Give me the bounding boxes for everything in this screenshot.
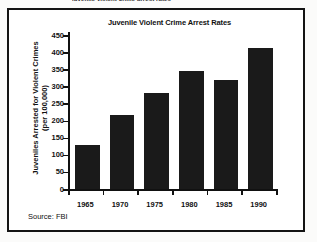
x-tick-mark xyxy=(207,189,209,195)
y-tick-mark xyxy=(63,86,70,88)
y-tick-mark xyxy=(63,103,70,105)
y-tick-label: 0 xyxy=(60,185,64,194)
chart-title: Juvenile Violent Crime Arrest Rates xyxy=(0,18,317,27)
x-label-1985: 1985 xyxy=(207,200,242,209)
x-tick-mark xyxy=(276,189,278,195)
y-tick-label: 50 xyxy=(56,167,64,176)
y-tick-mark xyxy=(63,138,70,140)
x-tick-mark xyxy=(241,189,243,195)
y-tick-label: 300 xyxy=(51,82,64,91)
y-tick-label: 200 xyxy=(51,116,64,125)
x-label-1975: 1975 xyxy=(137,200,172,209)
y-tick-mark xyxy=(63,35,70,37)
x-tick-mark xyxy=(103,189,105,195)
bar-1990 xyxy=(248,48,273,189)
y-tick-label: 400 xyxy=(51,48,64,57)
y-tick-mark xyxy=(63,69,70,71)
y-tick-mark xyxy=(63,121,70,123)
y-tick-label: 250 xyxy=(51,99,64,108)
bar-1985 xyxy=(214,80,239,189)
y-tick-mark xyxy=(63,172,70,174)
y-tick-mark xyxy=(63,155,70,157)
y-tick-label: 350 xyxy=(51,65,64,74)
x-label-1990: 1990 xyxy=(241,200,276,209)
x-label-1965: 1965 xyxy=(68,200,103,209)
bar-1965 xyxy=(75,145,100,189)
x-tick-mark xyxy=(137,189,139,195)
x-tick-mark xyxy=(172,189,174,195)
scanned-page: juvenile violent crime arrest rates Juve… xyxy=(0,0,317,242)
y-tick-label: 450 xyxy=(51,31,64,40)
bar-1970 xyxy=(110,115,135,189)
x-tick-mark xyxy=(68,189,70,195)
y-tick-label: 150 xyxy=(51,133,64,142)
y-axis-line xyxy=(68,32,70,190)
source-note: Source: FBI xyxy=(28,212,68,221)
bar-1980 xyxy=(179,71,204,189)
x-label-1980: 1980 xyxy=(172,200,207,209)
bar-1975 xyxy=(144,93,169,189)
cropped-header-text: juvenile violent crime arrest rates xyxy=(72,0,247,1)
y-tick-label: 100 xyxy=(51,150,64,159)
y-tick-mark xyxy=(63,52,70,54)
x-label-1970: 1970 xyxy=(103,200,138,209)
plot-area: 050100150200250300350400450 196519701975… xyxy=(68,32,276,190)
y-axis-title: Juveniles Arrested for Violent Crimes (p… xyxy=(32,28,50,188)
